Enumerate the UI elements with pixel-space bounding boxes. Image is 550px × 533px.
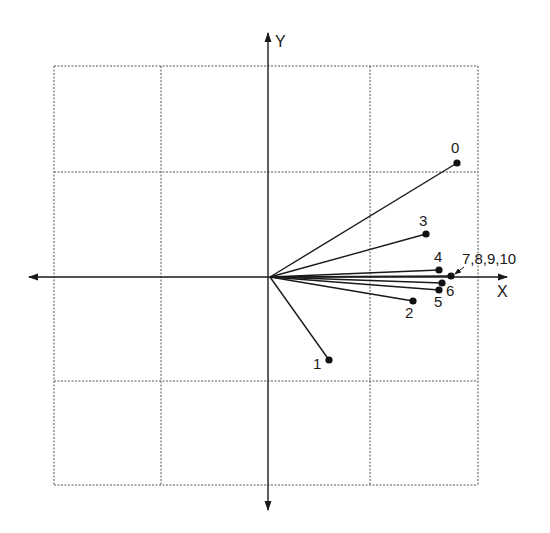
vector-diagram: X Y 01234567,8,9,10 <box>0 0 550 533</box>
vector-5 <box>270 277 439 290</box>
leader-arrow-7-10 <box>455 267 464 274</box>
point-label-2: 2 <box>405 304 413 321</box>
point-label-4: 4 <box>434 248 442 265</box>
point-label-6: 6 <box>446 282 454 299</box>
point-label-7-10: 7,8,9,10 <box>462 250 516 267</box>
point-4 <box>435 266 442 273</box>
point-1 <box>325 356 332 363</box>
vector-3 <box>270 234 426 277</box>
points: 01234567,8,9,10 <box>313 139 516 372</box>
vectors <box>270 163 457 360</box>
vector-0 <box>270 163 457 277</box>
point-label-1: 1 <box>313 355 321 372</box>
grid <box>54 66 478 485</box>
point-3 <box>422 230 429 237</box>
point-6 <box>438 279 445 286</box>
vector-6 <box>270 277 442 283</box>
y-axis-label: Y <box>275 33 286 50</box>
point-0 <box>453 159 460 166</box>
point-label-0: 0 <box>451 139 459 156</box>
x-axis-label: X <box>497 283 508 300</box>
vector-1 <box>270 277 329 360</box>
point-7-10 <box>447 272 454 279</box>
point-label-3: 3 <box>419 212 427 229</box>
point-label-5: 5 <box>434 293 442 310</box>
